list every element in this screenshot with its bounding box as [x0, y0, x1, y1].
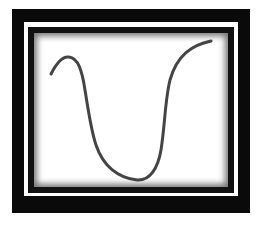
u-curve-path — [51, 41, 211, 180]
curve-drawing — [0, 0, 267, 228]
